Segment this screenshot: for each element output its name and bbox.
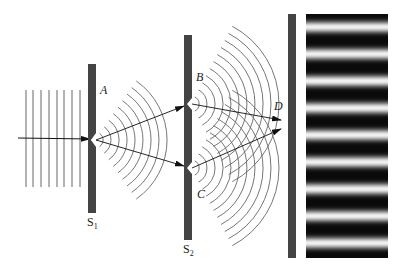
- wavefronts-from-b: [195, 26, 279, 181]
- label-s2: S2: [183, 242, 194, 258]
- ray-a-to-c-arrow: [96, 140, 184, 166]
- label-a: A: [99, 83, 108, 97]
- label-b: B: [196, 70, 204, 84]
- barrier-s1: [88, 64, 96, 213]
- screen-bar: [288, 14, 296, 258]
- ray-a-to-b-arrow: [96, 106, 184, 140]
- barrier-s2: [184, 35, 192, 240]
- double-slit-diagram: A B C D S1 S2: [0, 0, 401, 274]
- label-c: C: [197, 187, 206, 201]
- label-d: D: [273, 99, 283, 113]
- incident-ray-arrow: [18, 138, 90, 139]
- wavefronts-from-c: [195, 90, 279, 245]
- interference-fringe-pattern: [306, 14, 388, 258]
- wavefronts-from-a: [100, 81, 167, 199]
- label-s1: S1: [87, 215, 98, 231]
